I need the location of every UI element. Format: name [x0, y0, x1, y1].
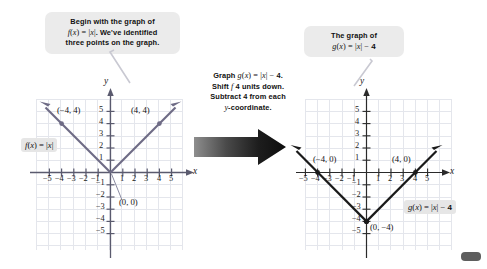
- right-ytick-2: 2: [355, 141, 359, 150]
- left-xtick-1: 1: [120, 174, 124, 183]
- mid-line1-pre: Graph: [213, 71, 237, 80]
- point-marker: [364, 219, 369, 224]
- right-callout-eq: ) = |: [343, 42, 357, 51]
- left-callout-line2-eq: ) = |: [77, 28, 91, 37]
- mid-line2-post: 4 units down.: [233, 82, 284, 91]
- right-ytick--5: −5: [352, 226, 361, 235]
- right-point-label-0--4: (0, −4): [370, 222, 393, 232]
- left-callout-bubble: Begin with the graph of f(x) = |x|. We'v…: [45, 12, 180, 54]
- right-xtick-1: 1: [376, 174, 380, 183]
- right-xtick--4: −4: [311, 174, 320, 183]
- left-ytick--4: −4: [96, 214, 105, 223]
- right-axes: [282, 82, 472, 262]
- right-point-label-4-0: (4, 0): [392, 154, 411, 164]
- right-ytick--3: −3: [352, 202, 361, 211]
- left-callout-tail-icon: [108, 50, 136, 84]
- right-ytick-1: 1: [355, 153, 359, 162]
- right-ytick--1: −1: [352, 178, 361, 187]
- left-xtick-4: 4: [157, 174, 161, 183]
- right-ytick-5: 5: [355, 105, 359, 114]
- left-ytick-1: 1: [99, 153, 103, 162]
- right-xtick--3: −3: [323, 174, 332, 183]
- right-x-axis-label: x: [450, 166, 454, 176]
- left-xtick--2: −2: [79, 174, 88, 183]
- mid-four: 4.: [276, 71, 282, 80]
- right-xtick-4: 4: [413, 174, 417, 183]
- mid-line2-pre: Shift: [212, 82, 231, 91]
- right-xtick--5: −5: [299, 174, 308, 183]
- left-xtick-5: 5: [169, 174, 173, 183]
- left-x-axis-label: x: [193, 166, 197, 176]
- left-xtick-2: 2: [132, 174, 136, 183]
- page-corner-badge: [461, 252, 481, 261]
- left-xtick--5: −5: [43, 174, 52, 183]
- right-arrow-icon: [194, 128, 290, 168]
- left-axes: [26, 82, 198, 262]
- left-ytick--1: −1: [96, 178, 105, 187]
- left-callout-line1: Begin with the graph of: [70, 17, 154, 26]
- left-ytick-3: 3: [99, 129, 103, 138]
- mid-line4-post: -coordinate.: [228, 103, 272, 112]
- right-point-label--4-0: (−4, 0): [313, 154, 336, 164]
- left-xtick-3: 3: [144, 174, 148, 183]
- left-callout-line3: three points on the graph.: [66, 38, 160, 47]
- left-ytick-2: 2: [99, 141, 103, 150]
- left-y-axis-label: y: [104, 76, 108, 86]
- left-ytick--5: −5: [96, 226, 105, 235]
- left-equation-label: f(x) = |x|: [21, 138, 57, 152]
- right-xtick--2: −2: [335, 174, 344, 183]
- right-callout-bubble: The graph of g(x) = |x| − 4: [304, 26, 404, 57]
- right-xtick-5: 5: [425, 174, 429, 183]
- mid-p2: ) = |: [248, 71, 262, 80]
- left-ytick-5: 5: [99, 105, 103, 114]
- left-point-label--4-4: (−4, 4): [57, 105, 80, 115]
- left-xtick--3: −3: [67, 174, 76, 183]
- right-ytick--2: −2: [352, 190, 361, 199]
- right-equation-label: g(x) = |x| − 4: [404, 200, 456, 214]
- right-ytick--4: −4: [352, 214, 361, 223]
- right-y-axis-label: y: [360, 76, 364, 86]
- point-marker: [157, 121, 162, 126]
- right-xtick-2: 2: [388, 174, 392, 183]
- right-xtick-3: 3: [400, 174, 404, 183]
- right-ytick-4: 4: [355, 117, 359, 126]
- right-ytick-3: 3: [355, 129, 359, 138]
- left-point-label-4-4: (4, 4): [131, 105, 150, 115]
- left-xtick--4: −4: [55, 174, 64, 183]
- left-ytick--2: −2: [96, 190, 105, 199]
- left-ytick--3: −3: [96, 202, 105, 211]
- left-point-label-0-0: (0, 0): [119, 197, 138, 207]
- left-ytick-4: 4: [99, 117, 103, 126]
- left-callout-line2-post: . We've identified: [96, 28, 158, 37]
- mid-line3: Subtract 4 from each: [210, 92, 286, 101]
- mid-p3: | −: [266, 71, 277, 80]
- right-callout-four: 4: [371, 42, 376, 51]
- right-callout-tail: | −: [360, 42, 371, 51]
- right-callout-line1: The graph of: [331, 31, 377, 40]
- point-marker: [59, 121, 64, 126]
